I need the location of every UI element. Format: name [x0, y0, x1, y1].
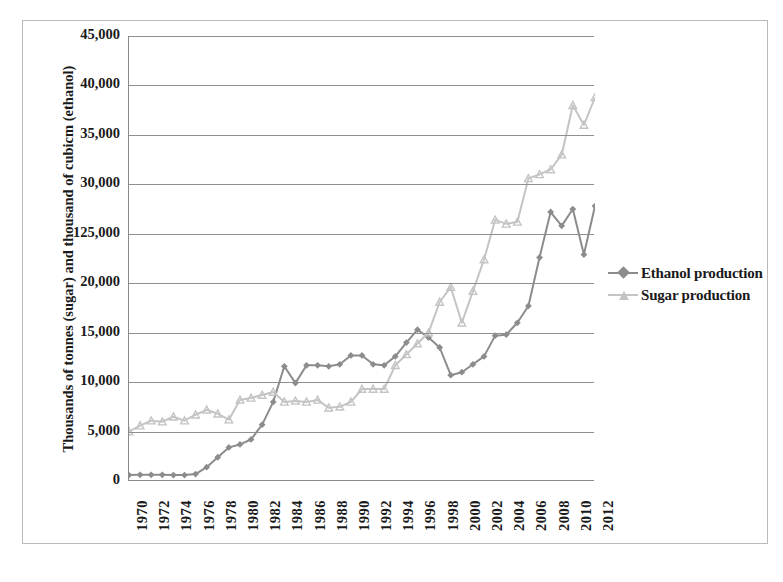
x-tick-label: 1980	[245, 500, 262, 531]
x-tick-label: 1982	[267, 500, 284, 531]
legend-item-sugar: Sugar production	[608, 284, 776, 306]
chart-figure: Thousands of tonnes (sugar) and thousand…	[0, 0, 783, 582]
legend-label-ethanol: Ethanol production	[641, 265, 763, 282]
x-tick-label: 2012	[600, 500, 617, 531]
x-tick-label: 2006	[533, 500, 550, 531]
x-tick-label: 2008	[556, 500, 573, 531]
legend-swatch-ethanol-icon	[608, 266, 638, 280]
x-tick-label: 1986	[312, 500, 329, 531]
x-tick-label: 1976	[201, 500, 218, 531]
legend-item-ethanol: Ethanol production	[608, 262, 776, 284]
x-tick-label: 1988	[334, 500, 351, 531]
x-tick-label: 1998	[445, 500, 462, 531]
legend-swatch-sugar-icon	[608, 288, 638, 302]
x-tick-label: 1990	[356, 500, 373, 531]
x-tick-label: 2010	[578, 500, 595, 531]
x-tick-label: 1994	[400, 500, 417, 531]
x-tick-label: 1978	[223, 500, 240, 531]
x-tick-label: 1996	[422, 500, 439, 531]
x-tick-label: 2004	[511, 500, 528, 531]
x-tick-label: 1972	[156, 500, 173, 531]
x-tick-label: 1984	[289, 500, 306, 531]
x-tick-label: 2002	[489, 500, 506, 531]
x-tick-label: 1974	[178, 500, 195, 531]
x-tick-label: 1970	[134, 500, 151, 531]
legend-label-sugar: Sugar production	[641, 287, 750, 304]
x-tick-label: 1992	[378, 500, 395, 531]
legend: Ethanol production Sugar production	[608, 262, 776, 306]
x-tick-label: 2000	[467, 500, 484, 531]
